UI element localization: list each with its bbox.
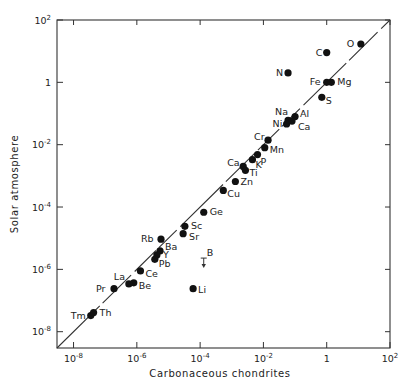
point-label-ni: Ni bbox=[273, 118, 283, 129]
data-point-rb bbox=[157, 236, 164, 243]
data-point-th bbox=[90, 309, 97, 316]
x-tick-label: 102 bbox=[382, 352, 399, 364]
data-point-o bbox=[357, 40, 364, 47]
data-point-zn bbox=[232, 178, 239, 185]
x-tick-label: 10-4 bbox=[191, 352, 211, 364]
point-label-pb: Pb bbox=[159, 258, 171, 269]
point-label-rb: Rb bbox=[141, 233, 154, 244]
point-label-li: Li bbox=[198, 284, 206, 295]
scatter-chart: 10-810-610-410-21102 10-810-610-410-2110… bbox=[0, 0, 414, 389]
point-label-pr: Pr bbox=[96, 283, 106, 294]
data-point-mg bbox=[328, 79, 335, 86]
point-label-fe: Fe bbox=[310, 76, 321, 87]
point-label-mg: Mg bbox=[337, 76, 351, 87]
y-tick-label: 10-8 bbox=[32, 325, 51, 337]
point-label-c: C bbox=[316, 47, 323, 58]
data-point-n bbox=[284, 69, 291, 76]
point-label-n: N bbox=[276, 67, 283, 78]
data-point-sc bbox=[181, 223, 188, 230]
x-tick-labels: 10-810-610-410-21102 bbox=[64, 352, 398, 364]
y-tick-label: 10-4 bbox=[32, 201, 52, 213]
point-label-zn: Zn bbox=[240, 176, 253, 187]
point-label-al: Al bbox=[300, 108, 309, 119]
y-tick-labels: 10-810-610-410-21102 bbox=[32, 14, 52, 338]
point-label-b: B bbox=[207, 247, 214, 258]
point-label-cr: Cr bbox=[254, 131, 265, 142]
data-point-pr bbox=[110, 285, 117, 292]
data-point-ti bbox=[242, 167, 249, 174]
point-label-sr: Sr bbox=[189, 231, 199, 242]
y-tick-label: 102 bbox=[34, 14, 51, 26]
data-point-s bbox=[318, 94, 325, 101]
point-label-mn: Mn bbox=[270, 144, 284, 155]
data-point-pb bbox=[151, 256, 158, 263]
point-label-ca: Ca bbox=[298, 121, 310, 132]
data-point-cu bbox=[220, 187, 227, 194]
data-point-c bbox=[323, 49, 330, 56]
point-label-na: Na bbox=[275, 106, 288, 117]
data-point-ge bbox=[200, 209, 207, 216]
point-label-la: La bbox=[114, 271, 125, 282]
x-tick-label: 10-6 bbox=[127, 352, 147, 364]
point-label-ce: Ce bbox=[145, 268, 158, 279]
x-axis-title: Carbonaceous chondrites bbox=[149, 368, 290, 379]
y-axis-title: Solar atmosphere bbox=[9, 135, 20, 233]
data-point-ca bbox=[288, 118, 295, 125]
y-tick-label: 1 bbox=[45, 77, 51, 88]
data-point-mn bbox=[261, 144, 268, 151]
data-point-li bbox=[190, 285, 197, 292]
x-tick-label: 1 bbox=[324, 353, 330, 364]
data-points: OCNFeMgSAlNaNiCaCrMnPKCaTiZnCuGeScSrRbBa… bbox=[70, 38, 365, 321]
point-label-be: Be bbox=[139, 280, 152, 291]
point-label-o: O bbox=[347, 38, 354, 49]
data-point-cr bbox=[264, 137, 271, 144]
point-label-tm: Tm bbox=[70, 310, 86, 321]
x-tick-label: 10-8 bbox=[64, 352, 83, 364]
point-label-cu: Cu bbox=[227, 188, 240, 199]
upper-limit-markers: B bbox=[201, 247, 214, 268]
point-label-ca: Ca bbox=[227, 157, 239, 168]
point-label-ge: Ge bbox=[210, 206, 223, 217]
y-tick-label: 10-6 bbox=[32, 263, 52, 275]
data-point-sr bbox=[180, 230, 187, 237]
x-tick-label: 10-2 bbox=[254, 352, 273, 364]
point-label-s: S bbox=[326, 95, 332, 106]
data-point-la bbox=[125, 280, 132, 287]
y-tick-label: 10-2 bbox=[32, 138, 51, 150]
diagonal-line bbox=[57, 20, 390, 348]
arrow-down-icon bbox=[202, 264, 206, 268]
reference-line-y-equals-x bbox=[57, 20, 390, 348]
data-point-ce bbox=[137, 267, 144, 274]
point-label-th: Th bbox=[99, 307, 112, 318]
